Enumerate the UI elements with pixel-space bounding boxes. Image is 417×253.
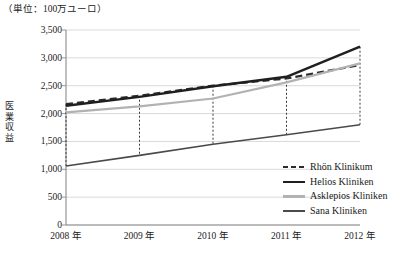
x-tick-label: 2012 年 [344, 231, 375, 242]
x-tick-label: 2008 年 [50, 231, 81, 242]
legend-swatch-icon [283, 177, 305, 187]
x-tick-label: 2011 年 [271, 231, 302, 242]
chart-container: （単位：100万ユーロ） 医 業 収 益 3,5003,0002,5002,00… [0, 0, 417, 253]
series-line [66, 47, 360, 106]
legend-item[interactable]: Asklepios Kliniken [283, 189, 388, 204]
legend-swatch-icon [283, 162, 305, 172]
legend-item[interactable]: Helios Kliniken [283, 175, 388, 190]
x-tick-label: 2009 年 [124, 231, 155, 242]
series-line [66, 63, 360, 112]
legend-swatch-icon [283, 206, 305, 216]
legend-item[interactable]: Sana Kliniken [283, 204, 388, 219]
legend-item[interactable]: Rhön Klinikum [283, 160, 388, 175]
legend-label: Rhön Klinikum [310, 160, 373, 175]
x-tick-label: 2010 年 [197, 231, 228, 242]
legend-label: Sana Kliniken [310, 204, 367, 219]
legend-label: Helios Kliniken [310, 175, 374, 190]
legend-swatch-icon [283, 191, 305, 201]
chart-legend: Rhön KlinikumHelios KlinikenAsklepios Kl… [283, 160, 388, 218]
legend-label: Asklepios Kliniken [310, 189, 388, 204]
